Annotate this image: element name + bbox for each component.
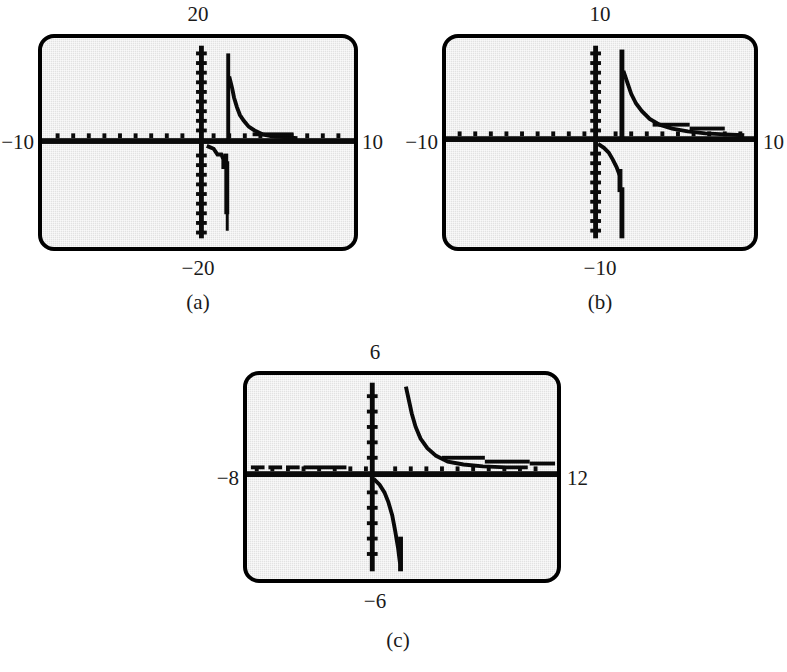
panel-c-label-left: −8 <box>217 468 239 489</box>
x-axis-b <box>446 136 754 142</box>
panel-c-caption: (c) <box>386 630 409 651</box>
panel-a-label-bottom: −20 <box>182 258 215 279</box>
calculator-screen-a <box>38 34 358 251</box>
curve-c-left <box>374 479 400 564</box>
curve-b-right-tail2 <box>690 127 725 131</box>
panel-b-caption: (b) <box>588 292 613 313</box>
graph-a <box>42 38 354 247</box>
curve-a-right <box>229 77 297 139</box>
curve-c-right-tail <box>442 456 485 460</box>
curve-b-asymptote-lower <box>619 187 624 238</box>
calculator-screen-c <box>243 371 561 583</box>
y-axis-a <box>199 46 204 239</box>
curve-a-left <box>207 146 226 167</box>
panel-b-label-bottom: −10 <box>584 258 617 279</box>
x-axis-c <box>247 471 557 477</box>
curve-b-left <box>598 144 619 175</box>
curve-a-right-tail <box>253 132 294 136</box>
curve-a-asymptote <box>226 53 230 142</box>
curve-c-left-dashes <box>251 465 347 469</box>
panel-a-label-right: 10 <box>362 132 383 153</box>
panel-a-label-left: −10 <box>1 132 34 153</box>
panel-c-label-top: 6 <box>370 342 381 363</box>
graph-c <box>247 375 557 579</box>
panel-b-label-right: 10 <box>763 132 784 153</box>
curve-c-right-tail2 <box>485 460 530 464</box>
panel-a-label-top: 20 <box>188 4 209 25</box>
panel-c-label-bottom: −6 <box>364 591 386 612</box>
curve-c-right <box>406 387 528 468</box>
panel-b-label-left: −10 <box>405 132 438 153</box>
curve-b-asymptote-upper <box>619 50 624 141</box>
curve-c-left-tail <box>398 537 403 572</box>
panel-a-caption: (a) <box>186 292 209 313</box>
curve-c-right-tail3 <box>530 462 555 466</box>
x-axis-a <box>42 138 354 144</box>
curve-b-right-tail <box>653 123 690 127</box>
graph-b <box>446 38 754 247</box>
panel-b-label-top: 10 <box>590 4 611 25</box>
x-ticks-a <box>56 133 341 138</box>
panel-c-label-right: 12 <box>567 468 588 489</box>
calculator-screen-b <box>442 34 758 251</box>
